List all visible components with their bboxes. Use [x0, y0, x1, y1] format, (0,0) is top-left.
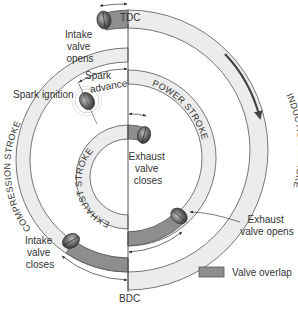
- intake-open-timing-arc: [100, 4, 127, 6]
- tdc-label: TDC: [120, 12, 141, 23]
- spark-ignition-label: Spark ignition: [13, 89, 74, 100]
- induction-stroke-label: INDUCTION STROKE: [284, 92, 298, 190]
- induction-ring: [128, 10, 268, 290]
- intake-closes-label: Intake valve closes: [25, 235, 55, 270]
- legend-swatch: [199, 267, 224, 277]
- exhaust-closes-label: Exhaust valve closes: [129, 151, 168, 186]
- spark-advance-label: Spark: [85, 70, 112, 81]
- legend: Valve overlap: [199, 267, 292, 278]
- exhaust-close-timing-arc: [129, 114, 146, 116]
- bdc-label: BDC: [119, 293, 140, 304]
- intake-opens-label: Intake valve opens: [65, 29, 95, 64]
- valve-timing-diagram: INDUCTION STROKE COMPRESSION STROKE POWE…: [0, 0, 298, 310]
- legend-label: Valve overlap: [232, 267, 292, 278]
- exhaust-opens-label: Exhaust valve opens: [240, 214, 293, 237]
- exhaust-ring: [76, 125, 128, 229]
